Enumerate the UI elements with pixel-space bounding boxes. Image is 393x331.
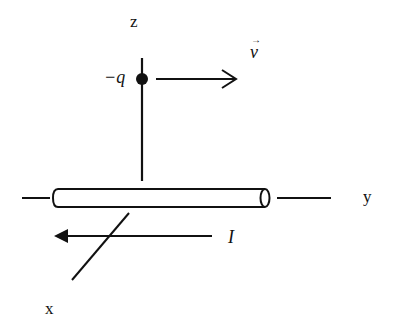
velocity-symbol: v [250, 43, 258, 61]
diagram-canvas [0, 0, 393, 331]
charge-dot [136, 73, 148, 85]
x-axis [72, 213, 129, 280]
z-axis-label: z [130, 13, 138, 30]
current-arrow [54, 229, 212, 243]
y-axis-label: y [363, 188, 372, 205]
velocity-arrow [156, 70, 236, 88]
x-axis-label: x [45, 300, 54, 317]
current-label: I [228, 228, 234, 246]
velocity-label: → v [250, 38, 262, 60]
wire-cylinder [53, 189, 270, 207]
charge-label: −q [104, 68, 125, 86]
